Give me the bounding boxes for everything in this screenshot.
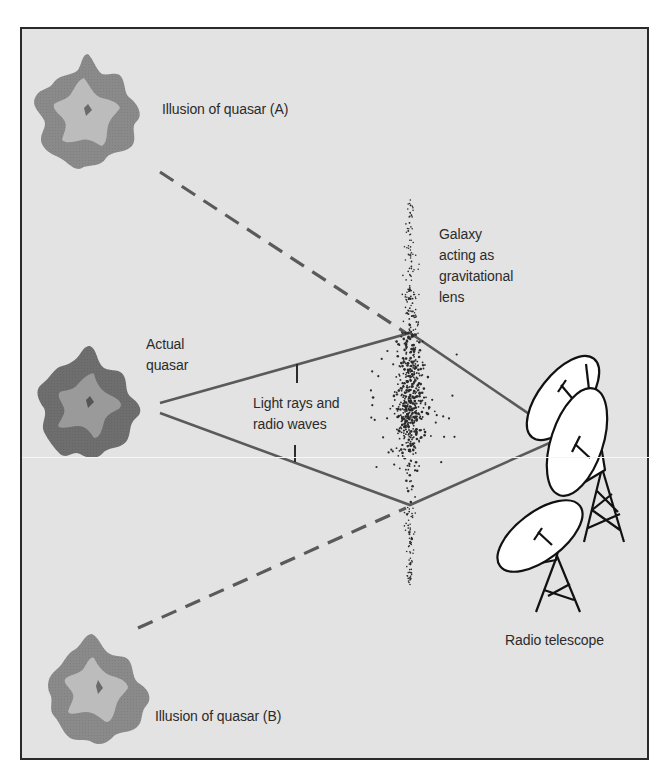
label-illusion-a: Illusion of quasar (A): [162, 99, 288, 120]
label-galaxy-line-2: acting as: [439, 245, 513, 266]
quasar-actual-icon: [38, 346, 141, 458]
quasar-illusion-b-icon: [48, 634, 149, 744]
gravitational-lens-diagram: [0, 0, 656, 773]
label-galaxy-line-4: lens: [439, 287, 513, 308]
label-actual-line-2: quasar: [146, 355, 188, 376]
light-ray-lower: [160, 413, 563, 505]
label-illusion-b: Illusion of quasar (B): [155, 706, 281, 727]
radio-telescope-icon: [486, 344, 624, 612]
label-galaxy-lens: Galaxy acting as gravitational lens: [439, 224, 513, 308]
quasar-illusion-a-icon: [34, 54, 140, 169]
scan-artifact-line: [22, 457, 652, 458]
label-actual-quasar: Actual quasar: [146, 334, 188, 376]
apparent-ray-a: [160, 172, 406, 333]
label-light-rays: Light rays and radio waves: [253, 393, 340, 435]
apparent-ray-b: [138, 508, 406, 628]
label-galaxy-line-3: gravitational: [439, 266, 513, 287]
label-actual-line-1: Actual: [146, 334, 188, 355]
label-light-line-2: radio waves: [253, 414, 340, 435]
light-ray-upper: [160, 333, 563, 437]
label-galaxy-line-1: Galaxy: [439, 224, 513, 245]
label-radio-telescope: Radio telescope: [505, 630, 604, 651]
label-light-line-1: Light rays and: [253, 393, 340, 414]
